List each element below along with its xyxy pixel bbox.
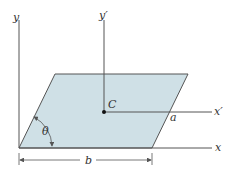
a-dimension-label: a [170, 111, 177, 124]
y-axis-label: y [12, 11, 20, 24]
x-prime-axis-label: x′ [214, 105, 223, 118]
centroid-label: C [108, 98, 117, 111]
x-axis-label: x [215, 141, 222, 154]
centroid-point [102, 110, 106, 114]
b-dimension-label: b [85, 154, 92, 167]
y-prime-axis-label: y′ [98, 9, 108, 22]
theta-label: θ [42, 125, 49, 138]
diagram-canvas: y y′ x x′ C a θ b [0, 0, 236, 174]
